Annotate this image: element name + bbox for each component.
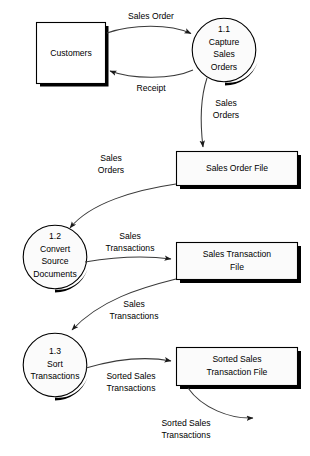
data-store-sales-transaction-file[interactable]: Sales Transaction File (177, 243, 302, 284)
process-1-2[interactable]: 1.2 Convert Source Documents (23, 225, 87, 292)
diagram-canvas: Customers 1.1 Capture Sales Orders Sales… (0, 0, 310, 456)
flow-sales-transactions-to-process-1-3[interactable]: Sales Transactions (72, 279, 176, 330)
flow-sales-orders-to-store[interactable]: Sales Orders (201, 78, 239, 147)
flow-sales-orders-p12-line1: Sales (100, 153, 122, 163)
process-1-3[interactable]: 1.3 Sort Transactions (23, 333, 87, 400)
flow-sales-transactions-p13-line1: Sales (123, 299, 145, 309)
process-1-2-number: 1.2 (49, 231, 61, 241)
flow-sorted-sales-transactions-to-store[interactable]: Sorted Sales Transactions (86, 359, 171, 393)
process-1-1-line3: Orders (211, 62, 237, 72)
process-1-2-line2: Source (41, 256, 68, 266)
flow-sales-transactions-store-line1: Sales (119, 231, 141, 241)
flow-receipt-label: Receipt (136, 83, 166, 93)
process-1-1-line2: Sales (213, 49, 235, 59)
process-1-1-line1: Capture (209, 37, 240, 47)
flow-sales-orders-p12-line2: Orders (98, 165, 124, 175)
process-1-2-line3: Documents (33, 269, 76, 279)
flow-sorted-sales-output-line2: Transactions (162, 430, 211, 440)
flow-sales-orders-to-process-1-2-line (70, 184, 176, 228)
process-1-3-line2: Transactions (31, 371, 80, 381)
process-1-1-number: 1.1 (218, 24, 230, 34)
flow-receipt[interactable]: Receipt (110, 70, 193, 93)
flow-sorted-sales-transactions-store-line (86, 359, 171, 368)
flow-receipt-line (110, 70, 193, 77)
sorted-sales-transaction-file-line2: Transaction File (207, 367, 268, 377)
process-1-2-line1: Convert (40, 244, 71, 254)
flow-sorted-sales-output-line (188, 388, 253, 418)
flow-sales-transactions-to-store[interactable]: Sales Transactions (85, 231, 171, 262)
flow-sorted-sales-output-line1: Sorted Sales (161, 418, 210, 428)
flow-sales-order-label: Sales Order (128, 11, 174, 21)
data-store-sorted-sales-transaction-file[interactable]: Sorted Sales Transaction File (177, 348, 302, 390)
flow-sales-orders-to-store-line (201, 78, 207, 147)
flow-sales-orders-to-store-line2: Orders (213, 110, 239, 120)
sales-transaction-file-line2: File (230, 262, 244, 272)
sorted-sales-transaction-file-line1: Sorted Sales (212, 354, 261, 364)
customers-label: Customers (50, 48, 92, 58)
process-1-1[interactable]: 1.1 Capture Sales Orders (192, 18, 257, 85)
flow-sales-orders-to-process-1-2[interactable]: Sales Orders (70, 153, 176, 228)
sales-transaction-file-line1: Sales Transaction (203, 249, 272, 259)
flow-sales-orders-to-store-line1: Sales (215, 98, 237, 108)
process-1-3-number: 1.3 (49, 346, 61, 356)
flow-sorted-sales-store-line1: Sorted Sales (106, 371, 155, 381)
flow-sales-transactions-to-store-line (85, 257, 171, 262)
process-1-3-line1: Sort (47, 359, 63, 369)
flow-sorted-sales-store-line2: Transactions (107, 383, 156, 393)
data-store-sales-order-file[interactable]: Sales Order File (177, 152, 302, 190)
data-flow-diagram: Customers 1.1 Capture Sales Orders Sales… (0, 0, 310, 456)
flow-sales-order-line (107, 26, 191, 33)
flow-sorted-sales-transactions-output[interactable]: Sorted Sales Transactions (161, 388, 253, 440)
external-entity-customers[interactable]: Customers (37, 23, 109, 87)
flow-sales-order[interactable]: Sales Order (107, 11, 191, 33)
sales-order-file-label: Sales Order File (206, 163, 268, 173)
flow-sales-transactions-p13-line2: Transactions (110, 311, 159, 321)
flow-sales-transactions-store-line2: Transactions (106, 243, 155, 253)
